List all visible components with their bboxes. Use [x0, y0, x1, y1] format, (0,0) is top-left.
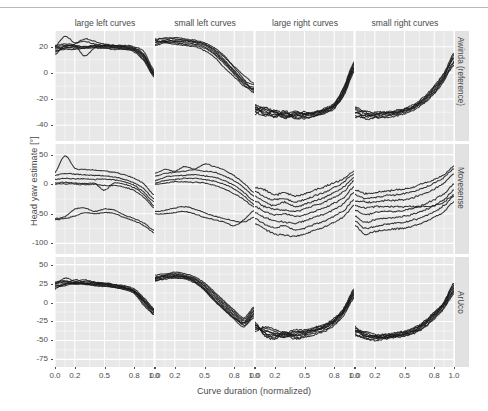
column-header-large-left-curves: large left curves	[55, 16, 155, 30]
x-tick-mark	[305, 367, 306, 369]
y-tick-mark	[51, 184, 53, 185]
row-header-aruco-label: ArUco	[453, 291, 467, 314]
panel-awinda-reference-small-right-curves	[355, 31, 454, 141]
y-tick-mark	[51, 47, 53, 48]
x-tick-mark	[205, 367, 206, 369]
figure-container: large left curves small left curves larg…	[0, 0, 488, 411]
row-header-movesense-label: Movesense	[453, 167, 467, 209]
x-tick-mark	[175, 367, 176, 369]
y-tick-mark	[51, 265, 53, 266]
x-tick-mark	[55, 367, 56, 369]
y-tick-label: 50	[14, 261, 48, 269]
x-tick-label: 0.0	[44, 372, 66, 380]
x-tick-label: 0.0	[344, 372, 366, 380]
x-axis-title: Curve duration (normalized)	[55, 386, 453, 396]
column-header-large-right-curves: large right curves	[255, 16, 355, 30]
x-tick-label: 0.0	[144, 372, 166, 380]
x-tick-mark	[155, 367, 156, 369]
y-tick-label: -50	[14, 336, 48, 344]
y-tick-mark	[51, 155, 53, 156]
x-tick-label: 0.2	[164, 372, 186, 380]
panel-movesense-large-left-curves	[55, 144, 154, 254]
panel-awinda-reference-large-right-curves	[255, 31, 354, 141]
x-tick-mark	[355, 367, 356, 369]
x-tick-label: 0.8	[123, 372, 145, 380]
x-tick-mark	[454, 367, 455, 369]
y-tick-label: -100	[14, 239, 48, 247]
x-tick-label: 0.5	[394, 372, 416, 380]
y-tick-mark	[51, 284, 53, 285]
panel-awinda-reference-small-left-curves	[155, 31, 254, 141]
y-tick-mark	[51, 214, 53, 215]
x-tick-label: 0.8	[423, 372, 445, 380]
x-tick-label: 0.2	[264, 372, 286, 380]
row-header-aruco: ArUco	[455, 257, 469, 367]
top-divider-rule	[0, 7, 488, 8]
x-tick-mark	[405, 367, 406, 369]
panel-movesense-small-left-curves	[155, 144, 254, 254]
column-header-small-right-curves: small right curves	[355, 16, 455, 30]
panel-movesense-large-right-curves	[255, 144, 354, 254]
y-tick-label: 0	[14, 180, 48, 188]
x-tick-mark	[375, 367, 376, 369]
row-header-awinda-reference-label: Awinda (reference)	[453, 37, 467, 106]
y-tick-mark	[51, 359, 53, 360]
panel-movesense-small-right-curves	[355, 144, 454, 254]
y-tick-label: 50	[14, 151, 48, 159]
x-tick-label: 0.2	[364, 372, 386, 380]
x-tick-mark	[134, 367, 135, 369]
x-tick-mark	[334, 367, 335, 369]
y-tick-label: 20	[14, 43, 48, 51]
y-tick-mark	[51, 99, 53, 100]
x-tick-label: 0.8	[223, 372, 245, 380]
y-tick-label: 25	[14, 280, 48, 288]
y-tick-label: -75	[14, 355, 48, 363]
x-tick-mark	[275, 367, 276, 369]
y-tick-label: -50	[14, 210, 48, 218]
x-tick-mark	[434, 367, 435, 369]
y-tick-label: -40	[14, 121, 48, 129]
y-tick-mark	[51, 321, 53, 322]
x-tick-label: 0.0	[244, 372, 266, 380]
x-tick-label: 0.5	[94, 372, 116, 380]
y-tick-label: 0	[14, 69, 48, 77]
x-tick-mark	[255, 367, 256, 369]
panel-aruco-large-left-curves	[55, 257, 154, 367]
x-tick-label: 1.0	[443, 372, 465, 380]
row-header-movesense: Movesense	[455, 144, 469, 254]
panel-aruco-small-right-curves	[355, 257, 454, 367]
y-tick-mark	[51, 303, 53, 304]
y-tick-mark	[51, 243, 53, 244]
y-tick-mark	[51, 125, 53, 126]
y-tick-label: -25	[14, 317, 48, 325]
x-tick-mark	[75, 367, 76, 369]
x-tick-label: 0.5	[294, 372, 316, 380]
x-tick-label: 0.8	[323, 372, 345, 380]
x-tick-mark	[234, 367, 235, 369]
y-tick-mark	[51, 340, 53, 341]
y-tick-label: -20	[14, 95, 48, 103]
panel-aruco-small-left-curves	[155, 257, 254, 367]
panel-awinda-reference-large-left-curves	[55, 31, 154, 141]
column-header-small-left-curves: small left curves	[155, 16, 255, 30]
panel-aruco-large-right-curves	[255, 257, 354, 367]
y-tick-label: 0	[14, 299, 48, 307]
y-tick-mark	[51, 73, 53, 74]
x-tick-label: 0.5	[194, 372, 216, 380]
x-tick-label: 0.2	[64, 372, 86, 380]
x-tick-mark	[105, 367, 106, 369]
row-header-awinda-reference: Awinda (reference)	[455, 31, 469, 141]
